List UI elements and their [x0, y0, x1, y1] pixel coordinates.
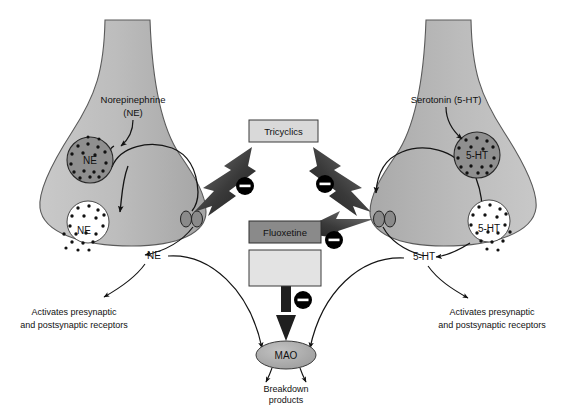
mao-enzyme: MAO	[256, 341, 316, 369]
breakdown-products-line2: products	[269, 395, 304, 405]
mao-inhibitor-arrow	[276, 286, 296, 341]
minus-mao-marker	[294, 291, 312, 309]
drug-box-tricyclics-label: Tricyclics	[264, 126, 303, 137]
right-receptor-effect-line1: Activates presynaptic	[449, 307, 535, 317]
left-receptor-effect-line2: and postsynaptic receptors	[20, 320, 128, 330]
right-neuron-shape	[370, 20, 536, 246]
minus-left-reuptake-marker	[236, 177, 254, 195]
breakdown-products-line1: Breakdown	[263, 384, 308, 394]
synapse-diagram: NE NE Norepinephrine (NE) NE Activates p…	[0, 0, 564, 406]
left-transmitter-label-line1: Norepinephrine	[101, 94, 166, 105]
diagram-canvas: NE NE Norepinephrine (NE) NE Activates p…	[0, 0, 564, 406]
left-cleft-transmitter-label: NE	[147, 250, 161, 261]
right-transmitter-label: Serotonin (5-HT)	[411, 94, 482, 105]
mao-enzyme-label: MAO	[275, 350, 298, 361]
right-cleft-transmitter-label: 5-HT	[413, 251, 435, 262]
left-release-vesicle-label: NE	[77, 225, 91, 236]
right-storage-vesicle: 5-HT	[454, 132, 500, 178]
minus-fluoxetine-marker	[325, 231, 343, 249]
left-storage-vesicle-label: NE	[83, 155, 97, 166]
drug-box-tricyclics[interactable]: Tricyclics	[249, 120, 318, 142]
drug-box-blank[interactable]	[249, 250, 321, 286]
drug-box-fluoxetine-label: Fluoxetine	[263, 227, 307, 238]
left-receptor-effect-line1: Activates presynaptic	[31, 307, 117, 317]
minus-right-reuptake-marker	[316, 175, 334, 193]
right-release-vesicle-label: 5-HT	[478, 223, 500, 234]
drug-box-fluoxetine[interactable]: Fluoxetine	[249, 221, 321, 243]
left-neuron-shape	[40, 20, 206, 246]
left-transmitter-label-line2: (NE)	[123, 107, 143, 118]
right-receptor-effect-line2: and postsynaptic receptors	[438, 320, 546, 330]
right-storage-vesicle-label: 5-HT	[466, 150, 488, 161]
